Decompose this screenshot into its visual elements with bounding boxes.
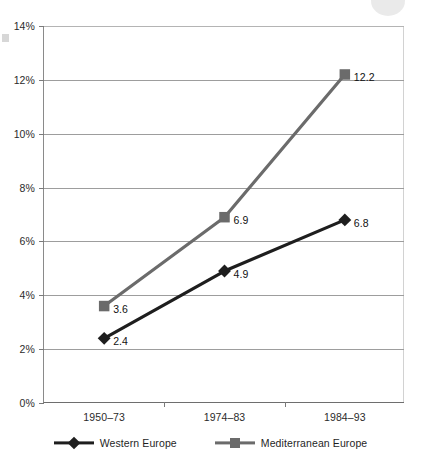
data-point-label: 3.6 [113,303,128,315]
legend-label: Mediterranean Europe [261,437,367,449]
legend-item-mediterranean-europe[interactable]: Mediterranean Europe [215,437,367,449]
y-axis-tick-label: 14% [14,20,35,32]
square-marker-icon [219,212,230,223]
data-point-label: 4.9 [234,268,249,280]
y-axis-tick-label: 12% [14,74,35,86]
diamond-marker-icon [218,265,231,278]
series-layer [44,26,405,403]
y-axis-tick-label: 10% [14,128,35,140]
y-axis-tick-label: 4% [20,289,35,301]
square-marker-icon [230,438,240,448]
legend-item-western-europe[interactable]: Western Europe [54,437,177,449]
data-point-label: 2.4 [113,335,128,347]
y-axis-tick-label: 2% [20,343,35,355]
y-axis-tick-label: 8% [20,182,35,194]
diamond-marker-icon [338,213,351,226]
x-axis-tick-label: 1984–93 [324,411,366,423]
y-axis-tick-label: 6% [20,235,35,247]
chart-legend: Western EuropeMediterranean Europe [0,437,421,449]
legend-label: Western Europe [100,437,177,449]
scan-artifact-circle [371,0,405,16]
x-axis-tick-label: 1974–83 [204,411,246,423]
data-point-label: 6.9 [234,214,249,226]
scan-artifact-mark [2,34,9,42]
diamond-marker-icon [98,332,111,345]
legend-swatch [215,437,255,449]
data-point-label: 12.2 [354,71,375,83]
square-marker-icon [99,301,110,312]
y-tick-mark [39,403,44,404]
line-chart: 0%2%4%6%8%10%12%14% 1950–731974–831984–9… [0,0,421,467]
legend-swatch [54,437,94,449]
data-point-label: 6.8 [354,217,369,229]
plot-area: 0%2%4%6%8%10%12%14% 1950–731974–831984–9… [43,26,404,403]
y-axis-tick-label: 0% [20,397,35,409]
square-marker-icon [340,69,351,80]
diamond-marker-icon [67,437,80,450]
x-axis-tick-label: 1950–73 [83,411,125,423]
